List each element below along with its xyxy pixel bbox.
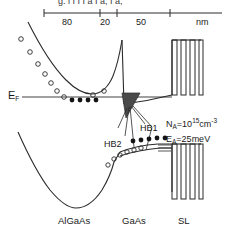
region-label-gaas: GaAs <box>122 216 146 226</box>
superlattice-bars-lower <box>172 144 203 199</box>
hb2-label: HB2 <box>104 140 122 149</box>
na-unit: cm <box>199 119 211 129</box>
filled-dots-lower <box>131 136 168 144</box>
scale-label-20: 20 <box>100 18 110 27</box>
scale-label-80: 80 <box>62 18 72 27</box>
superlattice-bars-upper <box>172 40 203 95</box>
scale-bar <box>44 9 222 17</box>
acceptor-energy-label: EA=25meV <box>166 135 210 146</box>
bound-state-levels <box>158 145 171 151</box>
acceptor-concentration-label: NA=1015cm-3 <box>166 118 217 131</box>
hb1-label: HB1 <box>140 124 158 133</box>
na-unit-exponent: -3 <box>211 117 217 124</box>
region-label-sl: SL <box>178 216 190 226</box>
conduction-band-curve <box>28 22 201 104</box>
fermi-level-subscript: F <box>15 95 19 102</box>
open-circles-lower <box>106 146 143 167</box>
region-label-algaas: AlGaAs <box>58 216 90 226</box>
band-diagram-figure: g. l I I I a I a, I a, <box>0 0 228 236</box>
ea-equals: =25meV <box>176 134 210 144</box>
open-circles-upper <box>19 37 107 100</box>
fermi-level-label: EF <box>8 90 19 103</box>
scale-label-50: 50 <box>136 18 146 27</box>
filled-dots-upper <box>70 98 99 103</box>
scale-unit-nm: nm <box>196 18 209 27</box>
na-equals: =10 <box>177 119 192 129</box>
